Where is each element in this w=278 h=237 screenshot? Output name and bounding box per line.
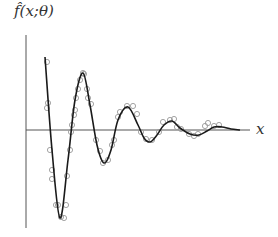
plot-area <box>0 0 278 237</box>
fitted-curve <box>45 57 240 218</box>
sample-point <box>202 123 207 128</box>
sample-point <box>205 120 210 125</box>
sample-point <box>130 103 135 108</box>
sample-point <box>61 215 66 220</box>
sample-point <box>63 202 68 207</box>
sample-point <box>134 111 139 116</box>
